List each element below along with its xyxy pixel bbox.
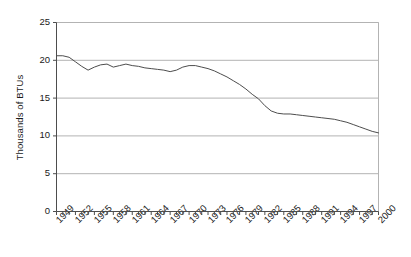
- gridlines: [57, 23, 379, 212]
- data-series-line: [57, 56, 379, 133]
- plot-frame: [57, 23, 379, 212]
- plot-area: [0, 0, 411, 257]
- x-axis-ticks: [57, 212, 379, 216]
- y-axis-ticks: [53, 23, 57, 212]
- chart-container: Thousands of BTUs 0510152025 19491952195…: [0, 0, 411, 257]
